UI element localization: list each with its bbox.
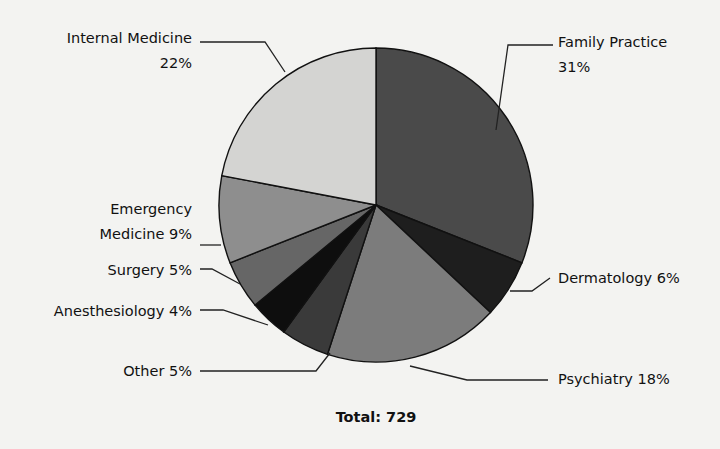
pie-slices — [219, 48, 533, 362]
pie-chart: Family Practice 31% Dermatology 6% Psych… — [0, 0, 720, 449]
label-family-practice: Family Practice — [558, 34, 667, 50]
label-anesthesiology: Anesthesiology 4% — [54, 303, 192, 319]
label-surgery: Surgery 5% — [108, 262, 192, 278]
label-emergency-pct: Medicine 9% — [100, 226, 192, 242]
label-other: Other 5% — [123, 363, 192, 379]
label-internal-medicine: Internal Medicine — [67, 30, 192, 46]
leader-internal-medicine — [200, 42, 285, 72]
label-dermatology: Dermatology 6% — [558, 270, 680, 286]
label-internal-medicine-pct: 22% — [160, 55, 192, 71]
label-psychiatry: Psychiatry 18% — [558, 371, 670, 387]
label-family-practice-pct: 31% — [558, 59, 590, 75]
total-label: Total: 729 — [336, 409, 417, 425]
leader-other — [200, 353, 330, 371]
label-emergency: Emergency — [110, 201, 192, 217]
leader-dermatology — [510, 278, 550, 291]
leader-psychiatry — [410, 366, 548, 380]
leader-anesthesiology — [200, 310, 268, 325]
